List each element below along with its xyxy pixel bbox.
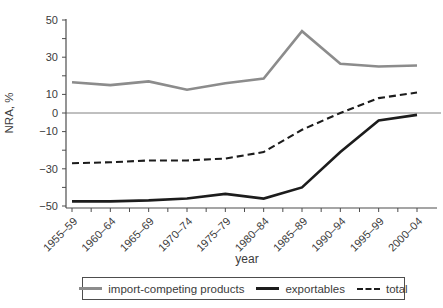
axes: 5030100−10−30−501955–591960–641965–69197… xyxy=(39,14,441,254)
series-line-import-competing xyxy=(72,31,417,90)
legend-item-exportables: exportables xyxy=(256,283,344,295)
x-tick-label: 2000–04 xyxy=(386,215,425,254)
chart-legend: import-competing productsexportablestota… xyxy=(82,277,405,300)
chart-canvas: 5030100−10−30−501955–591960–641965–69197… xyxy=(0,0,443,270)
y-tick-label: −50 xyxy=(39,200,58,212)
y-tick-label: 30 xyxy=(46,51,58,63)
series-line-exportables xyxy=(72,115,417,201)
legend-swatch-import-competing xyxy=(79,287,102,290)
y-tick-label: 0 xyxy=(52,107,58,119)
y-tick-label: −30 xyxy=(39,163,58,175)
x-tick-label: 1980–84 xyxy=(232,215,271,254)
legend-swatch-exportables xyxy=(256,287,279,290)
y-tick-label: 10 xyxy=(46,88,58,100)
y-axis-title: NRA, % xyxy=(3,93,15,134)
x-axis-title: year xyxy=(235,252,258,266)
x-tick-label: 1990–94 xyxy=(309,215,348,254)
legend-label-total: total xyxy=(386,283,408,295)
nra-by-product-group-chart: 5030100−10−30−501955–591960–641965–69197… xyxy=(0,0,443,308)
x-tick-label: 1985–89 xyxy=(271,215,310,254)
legend-swatch-total xyxy=(357,288,380,290)
series-line-total xyxy=(72,93,417,164)
x-tick-label: 1965–69 xyxy=(117,215,156,254)
x-tick-label: 1970–74 xyxy=(156,215,195,254)
y-tick-label: −10 xyxy=(39,125,58,137)
x-tick-label: 1975–79 xyxy=(194,215,233,254)
legend-label-exportables: exportables xyxy=(285,283,344,295)
y-tick-label: 50 xyxy=(46,14,58,26)
x-tick-label: 1955–59 xyxy=(41,215,80,254)
legend-label-import-competing: import-competing products xyxy=(108,283,244,295)
x-tick-label: 1995–99 xyxy=(347,215,386,254)
legend-item-total: total xyxy=(357,283,408,295)
x-tick-label: 1960–64 xyxy=(79,215,118,254)
legend-item-import-competing: import-competing products xyxy=(79,283,244,295)
